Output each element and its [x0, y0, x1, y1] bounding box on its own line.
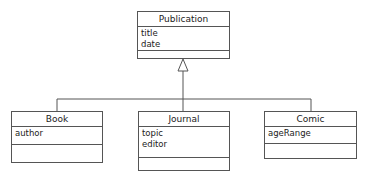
attribute: date	[141, 39, 226, 50]
class-book[interactable]: Book author	[11, 111, 103, 163]
class-publication[interactable]: Publication title date	[137, 11, 230, 59]
class-name: Publication	[138, 12, 229, 27]
attribute: topic	[142, 128, 226, 139]
attributes-compartment: title date	[138, 27, 229, 51]
attribute: ageRange	[268, 128, 353, 139]
attribute: title	[141, 28, 226, 39]
class-name: Book	[12, 112, 102, 127]
class-name: Journal	[139, 112, 229, 127]
generalization-arrow-icon	[178, 59, 188, 71]
attributes-compartment: ageRange	[265, 127, 356, 144]
attribute: editor	[142, 139, 226, 150]
class-comic[interactable]: Comic ageRange	[264, 111, 357, 159]
attributes-compartment: author	[12, 127, 102, 145]
class-journal[interactable]: Journal topic editor	[138, 111, 230, 171]
attributes-compartment: topic editor	[139, 127, 229, 158]
class-name: Comic	[265, 112, 356, 127]
attribute: author	[15, 128, 99, 139]
